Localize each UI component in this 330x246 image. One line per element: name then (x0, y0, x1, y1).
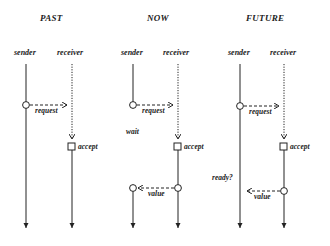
now-reply-event-circle (175, 185, 182, 192)
now-receiver-label: receiver (163, 49, 189, 57)
panel-future (237, 64, 288, 228)
past-accept-square (68, 143, 75, 150)
future-value-label: value (254, 193, 271, 201)
now-value-label: value (148, 190, 165, 198)
past-accept-label: accept (78, 143, 98, 151)
future-title: FUTURE (246, 14, 284, 23)
future-accept-square (280, 143, 287, 150)
panel-past (23, 64, 75, 228)
panel-now (130, 64, 182, 228)
future-accept-label: accept (290, 143, 310, 151)
future-reply-event-circle (281, 188, 288, 195)
now-title: NOW (147, 14, 169, 23)
future-request-label: request (249, 108, 272, 116)
now-accept-label: accept (184, 143, 204, 151)
now-request-label: request (142, 107, 165, 115)
now-accept-square (174, 143, 181, 150)
future-sender-label: sender (228, 49, 250, 57)
now-sender-label: sender (121, 49, 143, 57)
past-send-event-circle (23, 102, 30, 109)
past-receiver-label: receiver (57, 49, 83, 57)
now-send-event-circle (130, 102, 137, 109)
now-receive-value-circle (130, 185, 137, 192)
now-wait-label: wait (126, 128, 139, 136)
future-ready-label: ready? (212, 174, 233, 182)
past-title: PAST (40, 14, 63, 23)
diagram-canvas (0, 0, 330, 246)
future-receiver-label: receiver (270, 49, 296, 57)
future-send-event-circle (237, 103, 244, 110)
past-request-label: request (35, 107, 58, 115)
past-sender-label: sender (14, 49, 36, 57)
